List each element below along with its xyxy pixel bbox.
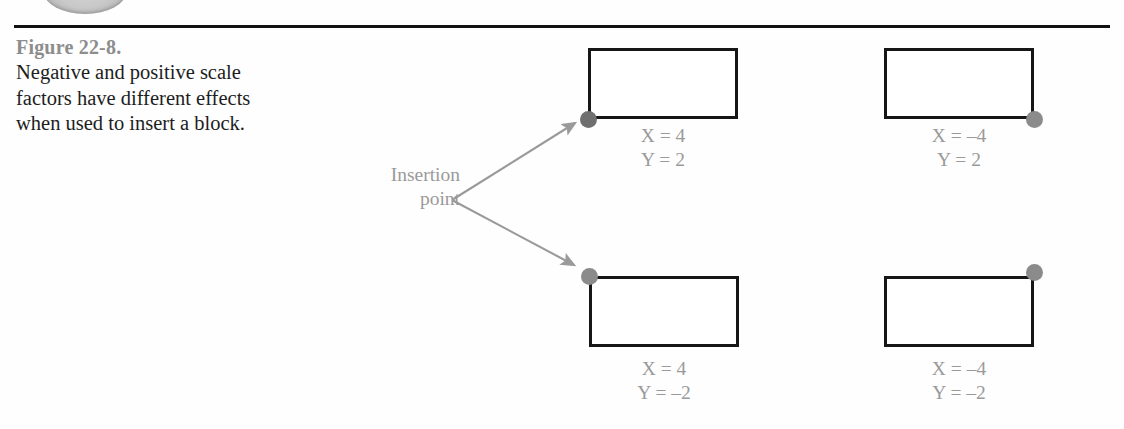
- insertion-point-dot: [1026, 264, 1043, 281]
- arrow-to-top-block: [452, 123, 575, 200]
- block-coordinates: X = 4 Y = 2: [583, 124, 743, 172]
- block-y-value: Y = 2: [879, 148, 1039, 172]
- block-x-value: X = –4: [879, 124, 1039, 148]
- insertion-point-label-line2: point: [348, 187, 460, 211]
- figure-caption-text: Negative and positive scale factors have…: [16, 60, 266, 137]
- block-coordinates: X = –4 Y = 2: [879, 124, 1039, 172]
- block-coordinates: X = –4 Y = –2: [879, 357, 1039, 405]
- block-x-value: X = 4: [584, 357, 744, 381]
- block-rectangle: [884, 48, 1034, 119]
- block-rectangle: [589, 276, 739, 347]
- figure-title: Figure 22-8.: [16, 34, 284, 60]
- block-rectangle: [588, 48, 738, 119]
- insertion-point-dot: [581, 268, 598, 285]
- block-rectangle: [884, 276, 1034, 347]
- arrow-to-bottom-block: [452, 200, 574, 265]
- decorative-ellipse-icon: [44, 0, 126, 14]
- block-x-value: X = 4: [583, 124, 743, 148]
- block-coordinates: X = 4 Y = –2: [584, 357, 744, 405]
- block-y-value: Y = –2: [584, 381, 744, 405]
- block-y-value: Y = –2: [879, 381, 1039, 405]
- insertion-point-label-line1: Insertion: [348, 163, 460, 187]
- figure-page: Figure 22-8. Negative and positive scale…: [0, 0, 1124, 429]
- horizontal-divider: [14, 25, 1110, 28]
- figure-caption: Figure 22-8. Negative and positive scale…: [16, 34, 284, 137]
- insertion-point-label: Insertion point: [348, 163, 460, 211]
- block-x-value: X = –4: [879, 357, 1039, 381]
- block-y-value: Y = 2: [583, 148, 743, 172]
